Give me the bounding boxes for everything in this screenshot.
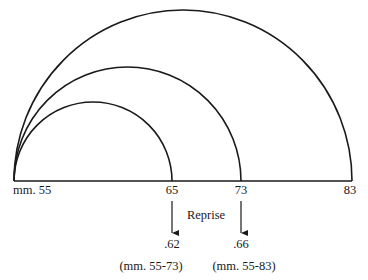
arc-diagram [0, 0, 368, 280]
arc-middle-55-73 [14, 67, 241, 181]
arc-outer-55-83 [14, 10, 352, 181]
ratio-value-66: .66 [233, 237, 249, 251]
ratio-value-62: .62 [164, 237, 180, 251]
label-73: 73 [235, 183, 248, 197]
label-65: 65 [166, 183, 179, 197]
reprise-label: Reprise [187, 208, 225, 222]
arc-inner-55-65 [14, 102, 172, 181]
range-55-83: (mm. 55-83) [212, 259, 275, 273]
label-83: 83 [344, 183, 357, 197]
range-55-73: (mm. 55-73) [119, 259, 182, 273]
label-mm-55: mm. 55 [13, 183, 51, 197]
